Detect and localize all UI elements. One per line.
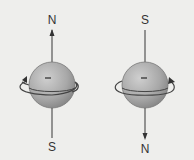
sphere bbox=[122, 62, 168, 108]
arrow-up-icon bbox=[50, 29, 55, 36]
label-bottom-left: S bbox=[42, 141, 62, 153]
label-top-left: N bbox=[42, 14, 62, 26]
spin-diagram: N S S N bbox=[0, 0, 194, 160]
arrow-down-icon bbox=[143, 133, 148, 140]
particle-spin-down bbox=[115, 30, 175, 140]
sphere bbox=[29, 62, 75, 108]
rotation-arrow-icon bbox=[168, 77, 175, 84]
diagram-canvas bbox=[0, 0, 194, 160]
label-bottom-right: N bbox=[135, 143, 155, 155]
label-top-right: S bbox=[135, 14, 155, 26]
particle-spin-up bbox=[20, 29, 78, 138]
